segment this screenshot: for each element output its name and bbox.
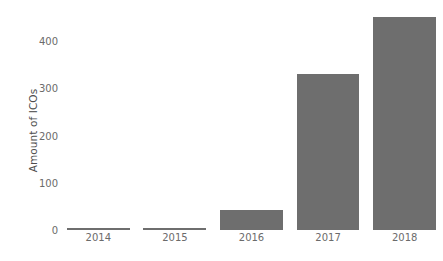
- bar: [297, 74, 360, 230]
- bar: [220, 210, 283, 230]
- bar: [143, 228, 206, 230]
- x-axis-tick-label: 2018: [392, 232, 417, 243]
- x-axis-tick-label: 2015: [162, 232, 187, 243]
- y-axis-tick-label: 300: [16, 83, 58, 94]
- bar-chart: Amount of ICOs 0100200300400 20142015201…: [0, 0, 443, 261]
- y-axis-tick-labels: 0100200300400: [14, 0, 58, 261]
- bar: [373, 17, 436, 230]
- y-axis-tick-label: 400: [16, 36, 58, 47]
- x-axis-tick-labels: 20142015201620172018: [60, 232, 443, 252]
- x-axis-tick-label: 2017: [315, 232, 340, 243]
- bar: [67, 228, 130, 230]
- y-axis-tick-label: 100: [16, 177, 58, 188]
- y-axis-tick-label: 0: [16, 225, 58, 236]
- plot-area: [60, 8, 443, 230]
- y-axis-tick-label: 200: [16, 130, 58, 141]
- x-axis-tick-label: 2016: [239, 232, 264, 243]
- x-axis-tick-label: 2014: [86, 232, 111, 243]
